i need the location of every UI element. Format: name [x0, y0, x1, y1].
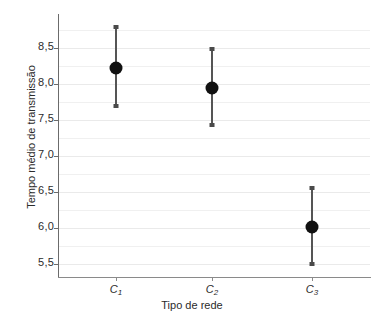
x-axis-title: Tipo de rede: [0, 299, 384, 311]
y-axis-tick-mark: [54, 48, 58, 49]
mean-marker-C2: [206, 82, 219, 95]
x-axis-tick-label-C2: C2: [206, 283, 218, 297]
error-bar-cap-lower: [114, 104, 119, 108]
gridline-major: [59, 120, 370, 121]
gridline-major: [59, 228, 370, 229]
gridline-minor: [59, 210, 370, 211]
x-axis-tick-label-C1: C1: [110, 283, 122, 297]
gridline-minor: [59, 102, 370, 103]
gridline-minor: [59, 246, 370, 247]
plot-area: [58, 14, 370, 277]
x-axis-line: [58, 277, 371, 278]
gridline-minor: [59, 138, 370, 139]
gridline-major: [59, 48, 370, 49]
y-axis-tick-label: 5,5: [8, 256, 54, 268]
gridline-major: [59, 156, 370, 157]
x-axis-tick-mark: [116, 277, 117, 281]
error-bar-cap-lower: [210, 123, 215, 127]
gridline-minor: [59, 66, 370, 67]
y-axis-tick-mark: [54, 120, 58, 121]
x-axis-tick-mark: [212, 277, 213, 281]
x-axis-tick-mark: [312, 277, 313, 281]
mean-marker-C3: [306, 220, 319, 233]
x-axis-tick-label-C3: C3: [306, 283, 318, 297]
y-axis-tick-mark: [54, 228, 58, 229]
gridline-major: [59, 192, 370, 193]
y-axis-tick-mark: [54, 264, 58, 265]
chart-container: 5,56,06,57,07,58,08,5 C1C2C3 Tipo de red…: [0, 0, 384, 322]
gridline-minor: [59, 30, 370, 31]
y-axis-line: [58, 14, 59, 277]
error-bar-cap-upper: [310, 186, 315, 190]
error-bar-cap-upper: [210, 47, 215, 51]
y-axis-tick-mark: [54, 192, 58, 193]
error-bar-cap-lower: [310, 262, 315, 266]
gridline-major: [59, 264, 370, 265]
gridline-minor: [59, 174, 370, 175]
y-axis-tick-mark: [54, 84, 58, 85]
error-bar-cap-upper: [114, 25, 119, 29]
mean-marker-C1: [110, 62, 123, 75]
y-axis-tick-mark: [54, 156, 58, 157]
y-axis-title: Tempo médio de transmissão: [25, 27, 37, 247]
